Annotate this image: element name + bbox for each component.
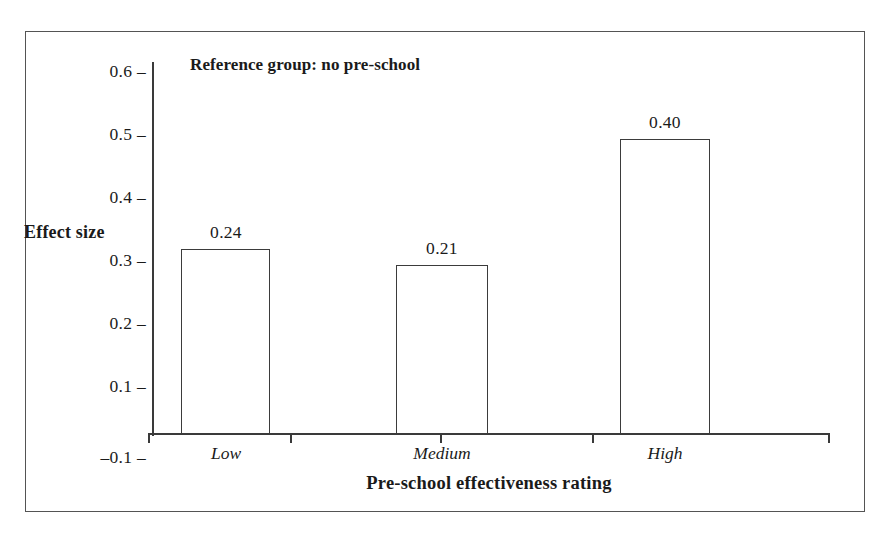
- x-axis-title: Pre-school effectiveness rating: [148, 473, 830, 494]
- x-tick-end: [828, 434, 830, 443]
- bar-high: [620, 139, 710, 434]
- x-category-high: High: [615, 443, 715, 464]
- figure-container: 0.6 – 0.5 – 0.4 – 0.3 – 0.2 – 0.1 – –0.1…: [0, 0, 887, 538]
- bar-value-high: 0.40: [615, 112, 715, 133]
- bar-value-low: 0.24: [176, 222, 276, 243]
- y-tick-4: 0.2 –: [52, 315, 146, 333]
- x-tick-3: [592, 434, 594, 443]
- x-tick-2: [440, 434, 442, 443]
- x-tick-start: [148, 434, 150, 443]
- y-tick-label-2: 0.4 –: [62, 189, 146, 207]
- y-tick-label-6: –0.1 –: [62, 449, 146, 467]
- y-tick-6: –0.1 –: [52, 449, 146, 467]
- y-tick-0: 0.6 –: [52, 63, 146, 81]
- y-axis-line: [152, 62, 154, 436]
- y-tick-label-5: 0.1 –: [62, 378, 146, 396]
- x-category-medium: Medium: [392, 443, 492, 464]
- y-tick-3: 0.3 –: [52, 252, 146, 270]
- y-tick-label-3: 0.3 –: [62, 252, 146, 270]
- x-category-low: Low: [176, 443, 276, 464]
- y-tick-label-4: 0.2 –: [62, 315, 146, 333]
- y-tick-2: 0.4 –: [52, 189, 146, 207]
- y-tick-5: 0.1 –: [52, 378, 146, 396]
- bar-value-medium: 0.21: [392, 238, 492, 259]
- y-tick-label-1: 0.5 –: [62, 126, 146, 144]
- plot-area: 0.6 – 0.5 – 0.4 – 0.3 – 0.2 – 0.1 – –0.1…: [0, 0, 887, 538]
- y-axis-title: Effect size: [24, 222, 146, 243]
- chart-annotation: Reference group: no pre-school: [190, 55, 420, 75]
- y-tick-label-0: 0.6 –: [62, 63, 146, 81]
- bar-medium: [396, 265, 488, 434]
- x-tick-1: [290, 434, 292, 443]
- bar-low: [181, 249, 270, 434]
- y-tick-1: 0.5 –: [52, 126, 146, 144]
